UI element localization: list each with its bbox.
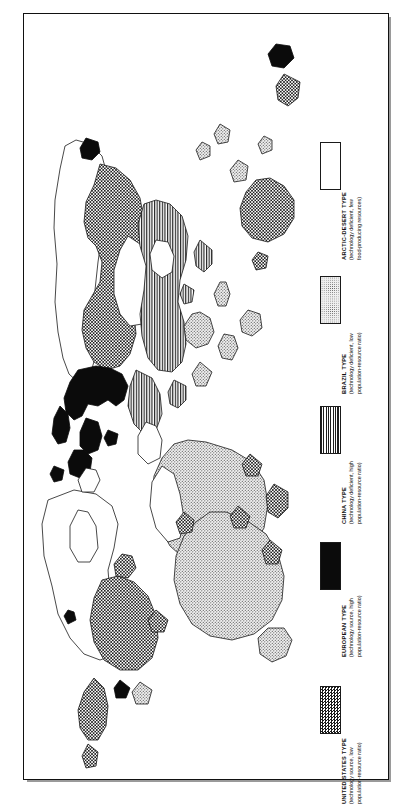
legend-sub1-arctic-desert: (technology deficient, few	[348, 110, 355, 260]
legend-title-brazil: BRAZIL TYPE	[341, 244, 348, 394]
region-caribbean	[132, 682, 152, 704]
legend-sub1-european: (technology source, high	[348, 507, 355, 657]
figure-page: ARCTIC-DESERT TYPE (technology deficient…	[0, 0, 406, 804]
legend-sub2-united-states: population-resource ratio)	[356, 654, 363, 804]
legend-title-arctic-desert: ARCTIC-DESERT TYPE	[341, 110, 348, 260]
region-island-small-a	[258, 136, 272, 154]
legend-title-european: EUROPEAN TYPE	[341, 507, 348, 657]
region-mexico	[78, 678, 108, 740]
region-korea	[180, 284, 194, 304]
legend-label-china: CHINA TYPE (technology deficient, high p…	[341, 374, 385, 524]
region-scandinavia	[80, 418, 102, 454]
region-borneo	[218, 334, 238, 360]
legend-sub1-china: (technology deficient, high	[348, 374, 355, 524]
region-madagascar	[266, 484, 288, 518]
legend-sub2-brazil: population-resource ratio)	[356, 244, 363, 394]
region-tasmania	[252, 252, 268, 270]
legend-title-china: CHINA TYPE	[341, 374, 348, 524]
region-new-guinea	[240, 310, 262, 336]
region-philippines	[214, 282, 230, 306]
region-island-small-b	[196, 142, 210, 160]
region-pacific-chain	[268, 44, 294, 68]
region-sumatra	[192, 362, 212, 386]
legend-sub1-brazil: (technology deficient, low	[348, 244, 355, 394]
map-frame-border: ARCTIC-DESERT TYPE (technology deficient…	[23, 13, 389, 780]
region-new-zealand	[276, 74, 300, 106]
region-china	[138, 200, 188, 372]
region-australia	[240, 178, 294, 242]
region-iceland	[214, 124, 230, 144]
legend-swatch-brazil	[320, 276, 341, 324]
legend-title-united-states: UNITED STATES TYPE	[341, 654, 348, 804]
legend-sub2-european: population-resource ratio)	[356, 507, 363, 657]
region-central-america	[82, 744, 98, 768]
legend-swatch-arctic-desert	[320, 142, 341, 190]
legend-sub2-arctic-desert: food-producing resources)	[356, 110, 363, 260]
legend-swatch-united-states	[320, 686, 341, 734]
legend-label-european: EUROPEAN TYPE (technology source, high p…	[341, 507, 385, 657]
legend-sub2-china: population-resource ratio)	[356, 374, 363, 524]
legend-label-arctic-desert: ARCTIC-DESERT TYPE (technology deficient…	[341, 110, 385, 260]
region-europe-islands	[104, 430, 118, 446]
region-indonesia	[184, 312, 214, 348]
world-map	[24, 14, 316, 781]
region-japan	[194, 240, 212, 272]
region-europe-small-island	[50, 466, 64, 482]
region-south-america-tail	[258, 628, 292, 662]
region-africa-east-check	[242, 454, 262, 476]
region-indochina	[168, 380, 186, 408]
region-black-spot-caribbean	[114, 680, 130, 698]
legend-swatch-china	[320, 406, 341, 454]
region-svalbard	[230, 160, 248, 182]
legend-sub1-united-states: (technology source, low	[348, 654, 355, 804]
legend-swatch-european	[320, 542, 341, 590]
region-alaska-check	[114, 554, 136, 578]
map-legend: ARCTIC-DESERT TYPE (technology deficient…	[316, 14, 388, 781]
legend-label-brazil: BRAZIL TYPE (technology deficient, low p…	[341, 244, 385, 394]
world-map-svg	[24, 14, 316, 781]
legend-label-united-states: UNITED STATES TYPE (technology source, l…	[341, 654, 385, 804]
